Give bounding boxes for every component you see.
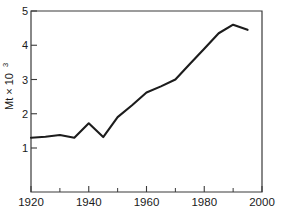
- x-tick-label-1960: 1960: [134, 196, 160, 208]
- line-chart: 5 4 3 2 1 Mt × 10 3 1920: [0, 0, 283, 222]
- y-axis-title: Mt × 10 3: [1, 63, 15, 110]
- x-tick-label-2000: 2000: [249, 196, 275, 208]
- chart-container: 5 4 3 2 1 Mt × 10 3 1920: [0, 0, 283, 222]
- data-series-line: [31, 25, 248, 138]
- y-axis-title-exponent: 3: [1, 63, 10, 67]
- y-tick-label-2: 2: [22, 108, 28, 120]
- x-axis-tick-labels: 1920 1940 1960 1980 2000: [18, 196, 275, 208]
- x-tick-label-1980: 1980: [191, 196, 217, 208]
- x-tick-label-1920: 1920: [18, 196, 44, 208]
- y-tick-label-1: 1: [22, 142, 28, 154]
- x-tick-label-1940: 1940: [76, 196, 102, 208]
- y-axis-ticks: [31, 11, 37, 148]
- plot-frame: [31, 11, 262, 192]
- y-axis-tick-labels: 5 4 3 2 1: [22, 5, 28, 154]
- y-tick-label-4: 4: [22, 39, 28, 51]
- y-axis-title-text: Mt × 10: [3, 73, 15, 110]
- y-tick-label-3: 3: [22, 74, 28, 86]
- x-axis-ticks: [31, 186, 262, 192]
- y-tick-label-5: 5: [22, 5, 28, 17]
